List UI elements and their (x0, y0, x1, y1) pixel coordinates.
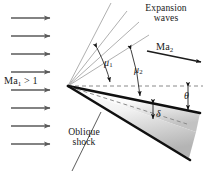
mach-downstream-label: Ma2 (156, 42, 173, 53)
mu1-subscript: 1 (109, 61, 113, 68)
delta-symbol: δ (156, 108, 161, 119)
theta-symbol: θ (184, 90, 189, 101)
expansion-wave-line (68, 22, 139, 86)
oblique-shock-label: Oblique shock (56, 127, 112, 147)
mach-downstream-subscript: 2 (170, 46, 174, 53)
oblique-shock-expansion-wave-diagram: Expansion waves Ma1 > 1 Ma2 μ1 μ2 θ δ Ob… (0, 0, 205, 174)
mu1-label: μ1 (104, 58, 113, 69)
diagram-canvas (0, 0, 205, 174)
delta-label: δ (156, 109, 161, 120)
expansion-waves-label-line2: waves (154, 12, 178, 23)
mu2-label: μ2 (134, 65, 143, 76)
mach-downstream-prefix: Ma (156, 41, 170, 52)
theta-label: θ (184, 91, 189, 102)
expansion-wave-line (68, 3, 111, 86)
mach-upstream-prefix: Ma (4, 75, 18, 86)
mach-upstream-suffix: > 1 (21, 75, 37, 86)
mu2-subscript: 2 (139, 68, 143, 75)
oblique-shock-label-line2: shock (73, 136, 96, 147)
mach-upstream-label: Ma1 > 1 (4, 76, 38, 87)
expansion-waves-label: Expansion waves (133, 3, 199, 23)
